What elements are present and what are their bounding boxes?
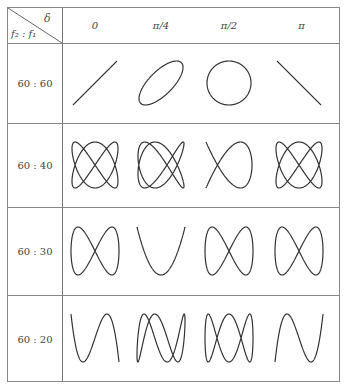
lissajous-figure [71,59,119,107]
lissajous-figure [137,59,185,107]
lissajous-figure [203,225,255,277]
phase-delta-label: δ [44,12,51,25]
column-header: 0 [63,8,127,43]
lissajous-table: δ f₂ : f₁ 0 π/4 π/2 π 60 : 60 60 : 40 60… [7,7,340,382]
lissajous-figure [136,140,186,190]
lissajous-figure [275,59,323,107]
header-column-divider [62,8,63,381]
row-label: 60 : 60 [8,44,62,123]
lissajous-figure [70,140,120,190]
row-label: 60 : 20 [8,296,62,382]
lissajous-figure [205,59,253,107]
lissajous-figure [135,312,187,364]
lissajous-figure [69,225,121,277]
lissajous-figure [273,225,325,277]
column-header: π [263,8,340,43]
lissajous-figure [203,312,255,364]
lissajous-figure [273,312,325,364]
lissajous-figure [69,312,121,364]
row-label: 60 : 30 [8,208,62,295]
lissajous-figure [204,140,254,190]
row-label: 60 : 40 [8,124,62,207]
lissajous-figure [135,225,187,277]
frequency-ratio-label: f₂ : f₁ [11,28,36,39]
lissajous-figure [274,140,324,190]
column-header: π/4 [127,8,195,43]
column-header: π/2 [195,8,263,43]
